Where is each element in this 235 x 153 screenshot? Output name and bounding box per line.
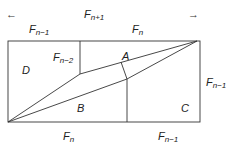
label-bottom-right: Fn−1 — [158, 131, 178, 144]
sliver-divider — [121, 62, 127, 79]
lower-diagonal-path — [8, 41, 197, 122]
region-c: C — [181, 103, 189, 114]
upper-diagonal-path — [8, 41, 197, 122]
region-d: D — [22, 65, 30, 76]
outer-rectangle — [8, 41, 200, 122]
label-top-left: Fn−1 — [29, 24, 49, 37]
right-arrow-icon: → — [188, 9, 199, 20]
label-top-right: Fn — [132, 24, 143, 37]
label-top-total: Fn+1 — [84, 9, 104, 22]
label-bottom-left: Fn — [63, 131, 74, 144]
region-b: B — [77, 103, 84, 114]
label-inner-left: Fn−2 — [53, 52, 73, 65]
left-arrow-icon: ← — [6, 9, 17, 20]
label-right-side: Fn−1 — [206, 77, 226, 90]
region-a: A — [122, 51, 129, 62]
